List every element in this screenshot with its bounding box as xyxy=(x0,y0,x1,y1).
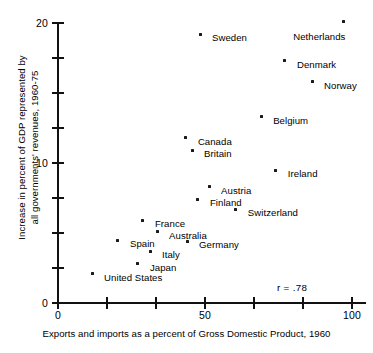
point-label-austria: Austria xyxy=(221,186,251,196)
y-axis-title: Increase in percent of GDP represented b… xyxy=(16,23,41,273)
point-label-belgium: Belgium xyxy=(273,116,308,126)
data-point-australia xyxy=(156,230,159,233)
data-point-sweden xyxy=(199,33,202,36)
x-axis-title: Exports and imports as a percent of Gros… xyxy=(0,328,373,340)
point-label-denmark: Denmark xyxy=(297,60,336,70)
point-label-ireland: Ireland xyxy=(288,169,318,179)
correlation-annotation: r = .78 xyxy=(277,283,307,293)
data-point-belgium xyxy=(260,115,263,118)
scatter-plot-figure: 01020 050100 r = .78 Increase in percent… xyxy=(0,0,373,353)
point-label-norway: Norway xyxy=(324,81,357,91)
data-point-ireland xyxy=(274,169,277,172)
point-label-united-states: United States xyxy=(104,273,162,283)
point-label-canada: Canada xyxy=(198,137,232,147)
point-label-sweden: Sweden xyxy=(212,33,247,43)
point-label-spain: Spain xyxy=(130,239,155,249)
data-point-britain xyxy=(191,149,194,152)
data-point-switzerland xyxy=(234,208,237,211)
data-point-france xyxy=(141,219,144,222)
y-axis-title-line1: Increase in percent of GDP represented b… xyxy=(16,23,29,273)
x-tick-label-100: 100 xyxy=(332,310,372,320)
data-point-united-states xyxy=(91,272,94,275)
data-point-germany xyxy=(186,240,189,243)
point-label-britain: Britain xyxy=(204,149,232,159)
data-point-austria xyxy=(208,185,211,188)
point-label-finland: Finland xyxy=(210,198,242,208)
point-label-netherlands: Netherlands xyxy=(293,32,345,42)
y-axis-title-line2: all governments' revenues, 1960-75 xyxy=(28,23,41,273)
data-point-norway xyxy=(311,80,314,83)
point-label-france: France xyxy=(155,219,185,229)
x-axis-end-dash xyxy=(357,302,366,304)
data-point-finland xyxy=(196,198,199,201)
y-tick-label-0: 0 xyxy=(18,298,48,308)
data-point-italy xyxy=(149,250,152,253)
point-label-switzerland: Switzerland xyxy=(248,208,298,218)
x-tick-label-50: 50 xyxy=(185,310,225,320)
point-label-germany: Germany xyxy=(199,240,239,250)
point-label-italy: Italy xyxy=(162,250,180,260)
x-tick-label-0: 0 xyxy=(38,310,78,320)
data-point-netherlands xyxy=(342,20,345,23)
